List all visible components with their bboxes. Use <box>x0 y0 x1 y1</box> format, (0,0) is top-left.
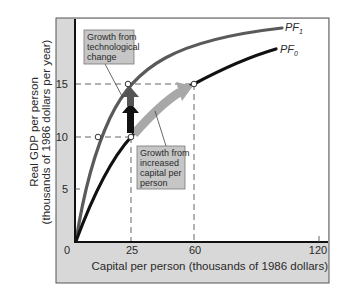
point-pf0-60-15 <box>191 81 197 87</box>
tech-note-line3: change <box>87 52 117 62</box>
x-tick-60: 60 <box>189 244 201 256</box>
tech-note-line1: Growth from <box>87 32 137 42</box>
capital-note-line4: person <box>140 178 168 188</box>
x-tick-120: 120 <box>309 244 327 256</box>
tech-note-line2: technological <box>87 42 140 52</box>
y-tick-15: 15 <box>56 78 68 90</box>
x-tick-0: 0 <box>64 244 70 256</box>
chart: 5 10 15 0 25 60 120 Capital per person (… <box>0 0 351 298</box>
y-tick-5: 5 <box>62 183 68 195</box>
x-tick-25: 25 <box>126 244 138 256</box>
y-axis-title-line1: Real GDP per person <box>28 77 40 187</box>
y-axis-title: Real GDP per person (thousands of 1986 d… <box>28 39 52 224</box>
y-axis-title-line2: (thousands of 1986 dollars per year) <box>40 39 52 224</box>
point-pf1-25-15 <box>125 81 131 87</box>
capital-note-line2: increased <box>140 158 179 168</box>
x-axis-title: Capital per person (thousands of 1986 do… <box>91 260 328 272</box>
tech-arrow-bottom-shaft <box>127 112 134 133</box>
tech-arrow-top-shaft <box>127 96 134 106</box>
y-tick-10: 10 <box>56 131 68 143</box>
point-pf0-25-10 <box>128 134 134 140</box>
capital-note-line3: capital per <box>140 168 182 178</box>
capital-note-line1: Growth from <box>140 148 190 158</box>
point-pf1-10-10 <box>95 134 101 140</box>
